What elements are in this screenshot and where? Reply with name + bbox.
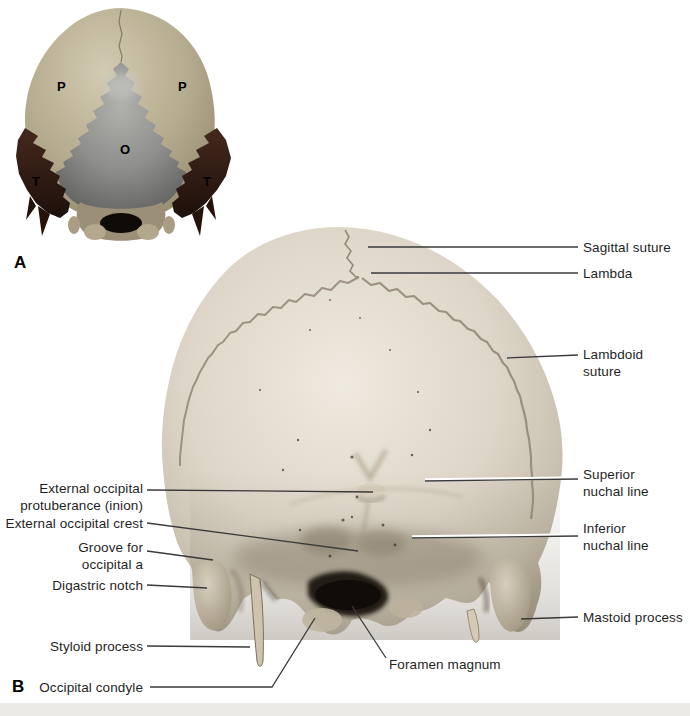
bone-letter-temporal-right: T — [203, 175, 211, 189]
bone-letter-parietal-left: P — [57, 80, 66, 94]
label-occipital-condyle: Occipital condyle — [39, 679, 143, 696]
bone-letter-parietal-right: P — [178, 80, 187, 94]
bone-letter-temporal-left: T — [32, 175, 40, 189]
label-superior-nuchal-line: Superior nuchal line — [583, 466, 665, 500]
panel-a-skull-diagram — [16, 8, 231, 241]
label-foramen-magnum: Foramen magnum — [389, 656, 501, 673]
label-mastoid-process: Mastoid process — [583, 609, 683, 626]
label-styloid-process: Styloid process — [50, 638, 143, 655]
leader-styloid-process — [147, 646, 250, 647]
foramen-magnum-a — [100, 213, 142, 233]
label-lambda: Lambda — [583, 265, 632, 282]
label-digastric-notch: Digastric notch — [52, 577, 143, 594]
panel-a-letter: A — [14, 254, 26, 272]
label-external-occipital-crest: External occipital crest — [6, 515, 143, 532]
label-groove-for-occipital-a: Groove for occipital a — [63, 539, 143, 573]
label-external-occipital-protuberance: External occipital protuberance (inion) — [11, 480, 143, 514]
label-inferior-nuchal-line: Inferior nuchal line — [583, 520, 665, 554]
page-bottom-strip — [0, 703, 690, 716]
label-sagittal-suture: Sagittal suture — [583, 239, 671, 256]
bone-letter-occipital: O — [120, 143, 130, 157]
panel-b-letter: B — [12, 678, 24, 696]
label-lambdoid-suture: Lambdoid suture — [583, 346, 663, 380]
figure-canvas: A B P P O T T Sagittal suture Lambda Lam… — [0, 0, 690, 716]
panel-b-skull-photo — [162, 227, 563, 666]
